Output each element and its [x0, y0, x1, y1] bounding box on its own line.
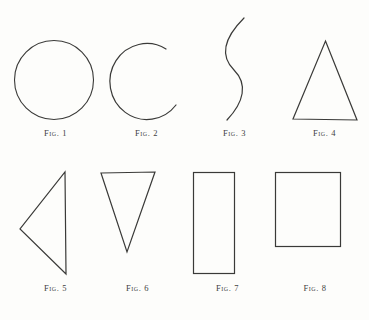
figure-caption-3-text: Fig. 3 [223, 128, 246, 138]
figure-caption-5-text: Fig. 5 [44, 283, 67, 293]
triangle-down-shape [90, 168, 185, 278]
s-curve-shape [187, 12, 282, 126]
figure-caption-4: Fig. 4 [277, 128, 369, 138]
figure-caption-3: Fig. 3 [187, 128, 282, 138]
figure-cell-6: Fig. 6 [90, 168, 185, 298]
open-arc-shape [99, 34, 194, 126]
triangle-left-shape [8, 168, 103, 278]
figure-caption-8: Fig. 8 [265, 283, 365, 293]
figure-cell-7: Fig. 7 [180, 168, 275, 298]
figure-caption-8-text: Fig. 8 [303, 283, 326, 293]
figure-cell-5: Fig. 5 [8, 168, 103, 298]
figure-cell-2: Fig. 2 [99, 34, 194, 144]
figure-caption-6-text: Fig. 6 [126, 283, 149, 293]
rectangle-tall-shape [180, 168, 275, 278]
square-shape [265, 168, 365, 278]
figure-caption-5: Fig. 5 [8, 283, 103, 293]
figure-cell-8: Fig. 8 [265, 168, 365, 298]
figure-caption-1-text: Fig. 1 [44, 128, 67, 138]
figure-caption-4-text: Fig. 4 [313, 128, 336, 138]
figures-plate: Fig. 1 Fig. 2 Fig. 3 Fi [0, 0, 369, 320]
figure-caption-6: Fig. 6 [90, 283, 185, 293]
figure-caption-7-text: Fig. 7 [216, 283, 239, 293]
figure-caption-2-text: Fig. 2 [135, 128, 158, 138]
figure-caption-7: Fig. 7 [180, 283, 275, 293]
figure-cell-4: Fig. 4 [277, 34, 369, 144]
circle-shape [8, 34, 103, 126]
triangle-up-shape [277, 34, 369, 126]
figure-caption-2: Fig. 2 [99, 128, 194, 138]
figure-cell-3: Fig. 3 [187, 12, 282, 144]
figure-caption-1: Fig. 1 [8, 128, 103, 138]
figure-cell-1: Fig. 1 [8, 34, 103, 144]
